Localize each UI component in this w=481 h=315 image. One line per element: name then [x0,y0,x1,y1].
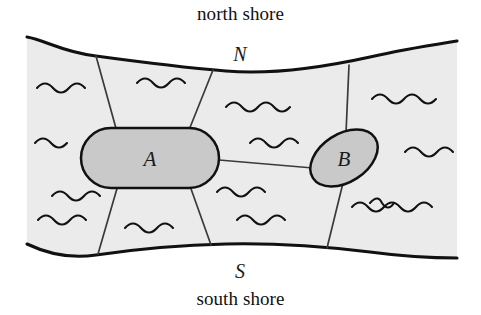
north-vertex-label: N [232,43,248,65]
river-diagram: A B N S [0,0,481,315]
south-shore-label: south shore [0,288,481,310]
figure-root: A B N S north shore south shore [0,0,481,315]
island-b-label: B [338,147,351,171]
south-vertex-label: S [235,260,245,282]
north-shore-label: north shore [0,3,481,25]
island-a-label: A [142,147,157,171]
